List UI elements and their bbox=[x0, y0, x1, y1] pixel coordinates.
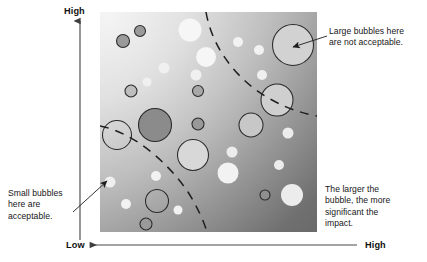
bubble bbox=[192, 118, 204, 130]
bubble bbox=[273, 25, 314, 66]
bubble bbox=[218, 163, 239, 184]
axis-label-vertical-high: High bbox=[64, 6, 85, 17]
bubble bbox=[281, 184, 303, 206]
bubble bbox=[121, 199, 131, 209]
bubble bbox=[139, 109, 172, 142]
bubble bbox=[239, 113, 263, 137]
bubble bbox=[260, 190, 270, 200]
annotation-small-bubbles: Small bubbles here are acceptable. bbox=[8, 188, 92, 222]
bubble bbox=[140, 218, 152, 230]
annotation-large-bubbles: Large bubbles here are not acceptable. bbox=[329, 26, 425, 49]
bubble bbox=[117, 35, 130, 48]
bubble bbox=[233, 37, 243, 47]
bubble bbox=[283, 128, 294, 139]
bubble bbox=[261, 84, 293, 116]
bubble bbox=[274, 160, 284, 170]
bubble bbox=[174, 206, 183, 215]
bubble bbox=[179, 19, 202, 42]
bubble bbox=[193, 86, 204, 97]
bubble bbox=[151, 171, 161, 181]
axis-label-horizontal-high: High bbox=[365, 240, 386, 251]
bubble bbox=[191, 70, 202, 81]
bubble bbox=[196, 47, 216, 67]
bubble bbox=[254, 45, 264, 55]
bubble bbox=[143, 78, 152, 87]
figure-root: Large bubbles here are not acceptable. S… bbox=[0, 0, 427, 262]
bubble bbox=[159, 63, 170, 74]
annotation-legend-note: The larger the bubble, the more signific… bbox=[325, 184, 425, 230]
bubble bbox=[135, 26, 146, 37]
bubble bbox=[227, 147, 238, 158]
bubble bbox=[178, 140, 209, 171]
bubble bbox=[257, 70, 267, 80]
bubble bbox=[125, 85, 137, 97]
axis-label-horizontal-low: Low bbox=[66, 240, 85, 251]
